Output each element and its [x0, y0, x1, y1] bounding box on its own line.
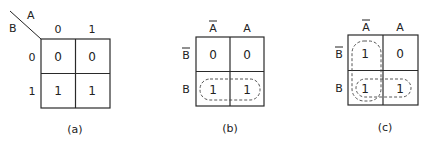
cell-0-1: 0: [88, 50, 96, 64]
col-header-1: 1: [89, 23, 96, 36]
col-header-0: 0: [55, 23, 62, 36]
cell-1-1: 1: [88, 84, 96, 98]
kmap-a: A B 0 1 0 1 0 0 1 1 (a): [9, 9, 110, 136]
col-header-a-bar: A: [209, 22, 217, 35]
cell-1-0: 1: [209, 83, 217, 97]
corner-row-var: B: [9, 22, 17, 35]
caption: (b): [222, 122, 238, 135]
cell-0-0: 0: [54, 50, 62, 64]
row-header-b-bar: B: [182, 49, 190, 62]
cell-0-0: 0: [209, 48, 217, 62]
kmap-b: A A B B 0 0 1 1 (b): [182, 21, 264, 135]
kmap-c: A A B B 1 0 1 1 (c): [335, 20, 418, 134]
row-header-b: B: [182, 83, 190, 96]
corner-col-var: A: [27, 9, 35, 22]
row-header-b-bar: B: [335, 48, 343, 61]
col-header-a: A: [396, 21, 404, 34]
cell-1-0: 1: [54, 84, 62, 98]
col-header-a-bar: A: [362, 21, 370, 34]
col-header-a: A: [243, 22, 251, 35]
cell-0-0: 1: [361, 47, 369, 61]
row-header-1: 1: [29, 85, 36, 98]
row-header-b: B: [335, 82, 343, 95]
caption: (a): [67, 123, 82, 136]
cell-0-1: 0: [396, 47, 404, 61]
cell-1-0: 1: [361, 82, 369, 96]
cell-1-1: 1: [243, 83, 251, 97]
cell-0-1: 0: [243, 48, 251, 62]
karnaugh-maps-figure: A B 0 1 0 1 0 0 1 1 (a) A A B B 0 0 1 1 …: [0, 0, 426, 143]
row-header-0: 0: [29, 51, 36, 64]
cell-1-1: 1: [396, 82, 404, 96]
caption: (c): [378, 121, 393, 134]
